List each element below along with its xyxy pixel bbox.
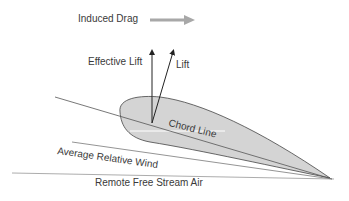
induced-drag-label: Induced Drag	[78, 14, 138, 24]
lift-label: Lift	[176, 60, 189, 70]
airfoil-diagram: Induced Drag Effective Lift Lift Chord L…	[0, 0, 349, 201]
diagram-canvas	[0, 0, 349, 201]
effective-lift-label: Effective Lift	[88, 57, 142, 67]
remote-free-stream-air-label: Remote Free Stream Air	[95, 178, 203, 188]
induced-drag-arrow	[150, 15, 195, 25]
